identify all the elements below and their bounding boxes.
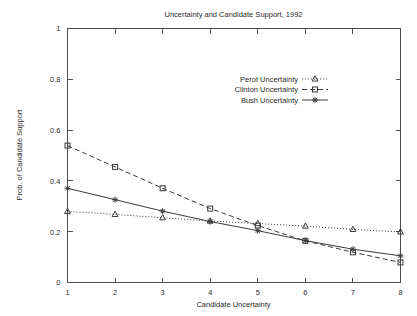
x-tick-label: 1	[65, 288, 69, 297]
x-tick-label: 2	[113, 288, 117, 297]
data-point-asterisk	[302, 237, 308, 243]
x-tick-label: 6	[303, 288, 307, 297]
data-point-asterisk	[207, 218, 213, 224]
x-tick-label: 3	[161, 288, 165, 297]
legend-label-clinton-uncertainty: Clinton Uncertainty	[235, 85, 299, 94]
asterisk-marker-icon	[64, 185, 70, 191]
asterisk-marker-icon	[255, 228, 261, 234]
asterisk-marker-icon	[397, 253, 403, 259]
chart-container: 00.20.40.60.81 12345678 Uncertainty and …	[0, 0, 417, 316]
y-tick-label: 1	[56, 24, 60, 33]
asterisk-marker-icon	[160, 208, 166, 214]
data-point-asterisk	[160, 208, 166, 214]
x-tick-label: 4	[208, 288, 212, 297]
x-tick-label: 8	[398, 288, 402, 297]
y-tick-label: 0	[56, 278, 60, 287]
asterisk-marker-icon	[350, 246, 356, 252]
x-tick-label: 5	[256, 288, 260, 297]
data-point-asterisk	[350, 246, 356, 252]
data-point-asterisk	[255, 228, 261, 234]
asterisk-marker-icon	[207, 218, 213, 224]
data-point-asterisk	[112, 197, 118, 203]
y-tick-label: 0.2	[50, 228, 60, 237]
data-point-asterisk	[64, 185, 70, 191]
x-tick-label: 7	[351, 288, 355, 297]
y-axis-title: Prob. of Candidate Support	[15, 109, 24, 201]
y-tick-label: 0.4	[50, 177, 60, 186]
chart-background	[0, 0, 417, 316]
y-tick-label: 0.8	[50, 75, 60, 84]
x-axis-title: Candidate Uncertainty	[196, 300, 270, 309]
asterisk-marker-icon	[302, 237, 308, 243]
y-tick-label: 0.6	[50, 126, 60, 135]
asterisk-marker-icon	[112, 197, 118, 203]
data-point-asterisk	[397, 253, 403, 259]
data-point-asterisk	[312, 97, 318, 103]
chart-title: Uncertainty and Candidate Support, 1992	[164, 10, 302, 19]
legend-label-bush-uncertainty: Bush Uncertainty	[241, 96, 298, 105]
asterisk-marker-icon	[312, 97, 318, 103]
legend-label-perot-uncertainty: Perot Uncertainty	[240, 75, 298, 84]
line-chart: 00.20.40.60.81 12345678 Uncertainty and …	[0, 0, 417, 316]
